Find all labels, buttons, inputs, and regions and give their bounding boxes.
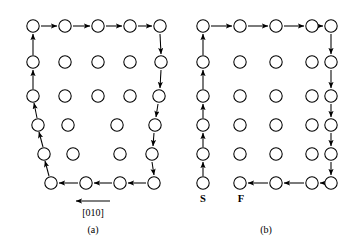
- lattice-atom: [234, 119, 246, 131]
- lattice-atom: [111, 119, 123, 131]
- lattice-atom: [270, 148, 282, 160]
- lattice-atom: [124, 90, 136, 102]
- lattice-atom: [38, 148, 50, 160]
- lattice-atom: [270, 56, 282, 68]
- lattice-atom: [27, 90, 39, 102]
- lattice-atom: [306, 56, 318, 68]
- lattice-atom: [234, 90, 246, 102]
- caption-panel-a: (a): [87, 224, 98, 236]
- lattice-atom: [325, 90, 337, 102]
- lattice-atom: [234, 20, 246, 32]
- lattice-atom: [45, 177, 57, 189]
- lattice-atom: [325, 119, 337, 131]
- lattice-atom: [306, 20, 318, 32]
- lattice-atom: [114, 148, 126, 160]
- lattice-atom: [146, 148, 158, 160]
- lattice-atom: [149, 119, 161, 131]
- lattice-atom-start: [197, 177, 209, 189]
- lattice-atom: [114, 177, 126, 189]
- lattice-atom: [325, 20, 337, 32]
- lattice-atom: [27, 20, 39, 32]
- lattice-atom: [59, 90, 71, 102]
- lattice-atom: [197, 56, 209, 68]
- lattice-atom: [80, 177, 92, 189]
- lattice-atom: [270, 20, 282, 32]
- lattice-atom: [197, 119, 209, 131]
- lattice-atom: [306, 119, 318, 131]
- lattice-atom: [234, 148, 246, 160]
- lattice-atom: [197, 148, 209, 160]
- figure-background: [0, 0, 349, 244]
- start-label: S: [200, 193, 206, 204]
- lattice-atom: [325, 56, 337, 68]
- lattice-atom: [67, 148, 79, 160]
- lattice-atom: [59, 56, 71, 68]
- lattice-atom-finish: [234, 177, 246, 189]
- lattice-atom: [154, 20, 166, 32]
- lattice-atom: [27, 56, 39, 68]
- lattice-atom: [197, 90, 209, 102]
- lattice-atom: [92, 90, 104, 102]
- lattice-atom: [59, 20, 71, 32]
- lattice-atom: [92, 56, 104, 68]
- lattice-atom: [124, 56, 136, 68]
- direction-label: [010]: [82, 207, 104, 218]
- lattice-atom: [62, 119, 74, 131]
- lattice-atom: [197, 20, 209, 32]
- finish-label: F: [238, 193, 244, 204]
- figure-root: [010] (a): [0, 0, 349, 244]
- lattice-atom: [325, 148, 337, 160]
- burgers-circuit-figure: [010] (a): [0, 0, 349, 244]
- lattice-atom: [306, 90, 318, 102]
- lattice-atom: [124, 20, 136, 32]
- lattice-atom: [32, 119, 44, 131]
- lattice-atom: [325, 177, 337, 189]
- lattice-atom: [148, 177, 160, 189]
- lattice-atom: [270, 119, 282, 131]
- lattice-atom: [234, 56, 246, 68]
- lattice-atom: [306, 148, 318, 160]
- lattice-atom: [270, 90, 282, 102]
- caption-panel-b: (b): [260, 224, 272, 236]
- lattice-atom: [155, 56, 167, 68]
- lattice-atom: [92, 20, 104, 32]
- lattice-atom: [153, 90, 165, 102]
- lattice-atom: [270, 177, 282, 189]
- lattice-atom: [306, 177, 318, 189]
